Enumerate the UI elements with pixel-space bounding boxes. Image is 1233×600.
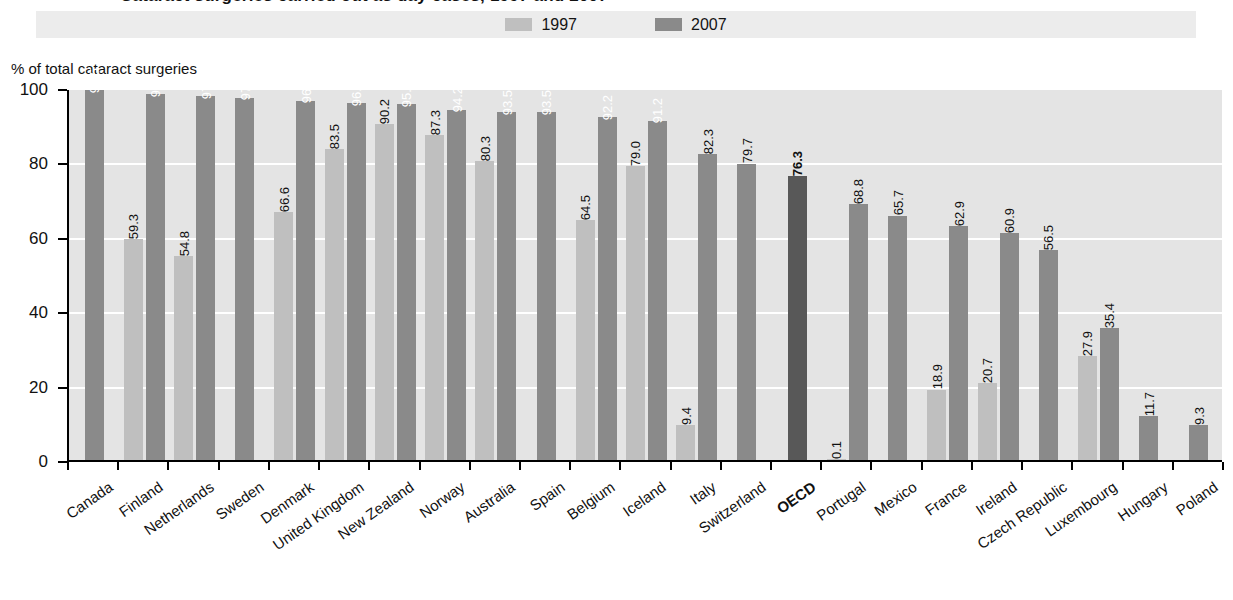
bar-value-label: 95.6 xyxy=(400,82,413,107)
bar-group: 59.398.4 xyxy=(119,90,169,460)
chart-legend: 1997 2007 xyxy=(36,11,1196,38)
bar-1997[interactable] xyxy=(626,166,645,460)
chart-title-strip: Cataract surgeries carried out as day ca… xyxy=(0,0,1233,9)
x-axis-label-poland: Poland xyxy=(1173,478,1221,519)
bar-value-label: 59.3 xyxy=(127,214,140,239)
legend-swatch-2007 xyxy=(655,18,682,31)
bar-value-label: 80.3 xyxy=(478,136,491,161)
bar-1997[interactable] xyxy=(325,149,344,460)
y-tick-20 xyxy=(58,387,67,389)
bar-1997[interactable] xyxy=(274,212,293,460)
bar-2007[interactable] xyxy=(447,110,466,460)
bar-group: 83.596.0 xyxy=(320,90,370,460)
bar-value-label: 9.4 xyxy=(679,407,692,425)
x-tick xyxy=(1122,462,1124,470)
bar-1997[interactable] xyxy=(475,161,494,460)
x-axis-label-norway: Norway xyxy=(416,478,467,521)
x-tick xyxy=(1071,462,1073,470)
bar-value-label: 62.9 xyxy=(952,201,965,226)
bar-2007[interactable] xyxy=(146,94,165,460)
chart-title: Cataract surgeries carried out as day ca… xyxy=(120,0,608,6)
x-axis-label-oecd: OECD xyxy=(774,478,819,517)
bar-1997[interactable] xyxy=(124,239,143,460)
bar-1997[interactable] xyxy=(827,459,846,460)
bar-2007[interactable] xyxy=(1039,250,1058,460)
bar-2007[interactable] xyxy=(85,90,104,460)
bar-group: 27.935.4 xyxy=(1073,90,1123,460)
bar-group: 87.394.2 xyxy=(421,90,471,460)
x-axis-labels: CanadaFinlandNetherlandsSwedenDenmarkUni… xyxy=(0,472,1233,600)
bar-2007[interactable] xyxy=(849,204,868,460)
bar-group: 66.696.6 xyxy=(270,90,320,460)
bar-group: 20.760.9 xyxy=(973,90,1023,460)
y-tick-label-60: 60 xyxy=(0,229,48,249)
legend-item-1997[interactable]: 1997 xyxy=(505,17,577,33)
bar-2007[interactable] xyxy=(497,112,516,460)
x-axis-label-sweden: Sweden xyxy=(212,478,266,523)
x-tick xyxy=(971,462,973,470)
bar-1997[interactable] xyxy=(174,256,193,460)
y-tick-60 xyxy=(58,238,67,240)
bar-1997[interactable] xyxy=(375,124,394,460)
x-tick xyxy=(469,462,471,470)
legend-item-2007[interactable]: 2007 xyxy=(655,17,727,33)
bar-value-label: 99.5 xyxy=(88,68,101,93)
bar-value-label: 9.3 xyxy=(1192,407,1205,425)
bar-1997[interactable] xyxy=(676,425,695,460)
x-tick xyxy=(218,462,220,470)
bar-group: 65.7 xyxy=(872,90,922,460)
bar-1997[interactable] xyxy=(1078,356,1097,460)
bar-group: 79.091.2 xyxy=(621,90,671,460)
bar-1997[interactable] xyxy=(927,390,946,460)
bar-group: 9.3 xyxy=(1174,90,1224,460)
y-tick-label-80: 80 xyxy=(0,154,48,174)
chart-area: 99.559.398.454.897.897.466.696.683.596.0… xyxy=(67,90,1222,462)
bar-group: 80.393.5 xyxy=(471,90,521,460)
bar-value-label: 87.3 xyxy=(428,110,441,135)
bar-value-label: 91.2 xyxy=(651,98,664,123)
bar-value-label: 92.2 xyxy=(601,95,614,120)
x-tick xyxy=(67,462,69,470)
bar-2007[interactable] xyxy=(537,112,556,460)
bar-2007[interactable] xyxy=(698,154,717,460)
x-tick xyxy=(117,462,119,470)
bar-group: 0.168.8 xyxy=(822,90,872,460)
bar-2007[interactable] xyxy=(648,121,667,460)
x-axis-label-mexico: Mexico xyxy=(871,478,920,519)
bar-group: 9.482.3 xyxy=(672,90,722,460)
y-tick-label-0: 0 xyxy=(0,452,48,472)
bar-2007[interactable] xyxy=(1000,233,1019,460)
bar-2007[interactable] xyxy=(598,117,617,460)
x-tick xyxy=(1172,462,1174,470)
bar-value-label: 90.2 xyxy=(378,99,391,124)
bar-2007[interactable] xyxy=(196,96,215,460)
bar-value-label: 97.4 xyxy=(238,75,251,100)
x-axis-label-france: France xyxy=(922,478,970,519)
bar-group: 90.295.6 xyxy=(370,90,420,460)
bar-value-label: 11.7 xyxy=(1142,392,1155,416)
bar-2007[interactable] xyxy=(235,98,254,460)
bar-2007[interactable] xyxy=(737,164,756,460)
y-tick-label-20: 20 xyxy=(0,378,48,398)
bar-2007[interactable] xyxy=(296,101,315,460)
bar-2007[interactable] xyxy=(1139,416,1158,460)
plot-background: 99.559.398.454.897.897.466.696.683.596.0… xyxy=(67,90,1222,462)
bar-value-label: 20.7 xyxy=(981,358,994,383)
legend-label-1997: 1997 xyxy=(541,17,577,33)
bar-oecd[interactable] xyxy=(788,176,807,460)
bar-2007[interactable] xyxy=(1100,328,1119,460)
bar-2007[interactable] xyxy=(347,103,366,460)
bar-value-label: 56.5 xyxy=(1042,225,1055,250)
bar-1997[interactable] xyxy=(576,220,595,460)
y-tick-label-100: 100 xyxy=(0,80,48,100)
bar-group: 99.5 xyxy=(69,90,119,460)
bar-1997[interactable] xyxy=(425,135,444,460)
bar-value-label: 65.7 xyxy=(891,190,904,215)
x-tick xyxy=(921,462,923,470)
bar-2007[interactable] xyxy=(949,226,968,460)
bar-2007[interactable] xyxy=(1189,425,1208,460)
bar-2007[interactable] xyxy=(397,104,416,460)
bar-value-label: 60.9 xyxy=(1003,208,1016,233)
bar-1997[interactable] xyxy=(978,383,997,460)
bar-2007[interactable] xyxy=(888,216,907,460)
